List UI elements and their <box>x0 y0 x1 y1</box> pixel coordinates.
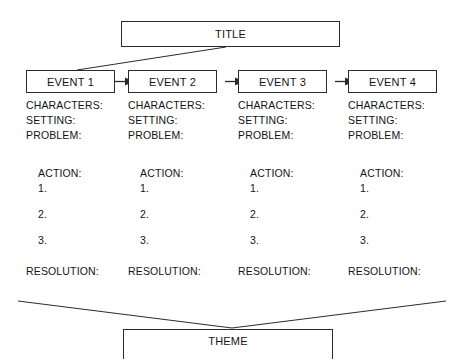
event-node-1-label: EVENT 1 <box>47 76 94 88</box>
action-item-1-2: 2. <box>26 207 128 222</box>
characters-label-1: CHARACTERS: <box>26 98 128 113</box>
event-node-3-label: EVENT 3 <box>259 76 306 88</box>
action-label-2: ACTION: <box>128 166 230 181</box>
characters-label-2: CHARACTERS: <box>128 98 230 113</box>
action-label-3: ACTION: <box>238 166 340 181</box>
action-item-3-2: 2. <box>238 207 340 222</box>
story-map-diagram: TITLE EVENT 1 CHARACTERS: SETTING: PROBL… <box>0 0 467 364</box>
field-spacer <box>348 196 450 207</box>
action-item-3-1: 1. <box>238 181 340 196</box>
right-resolution-to-theme-line <box>232 301 446 328</box>
action-item-3-3: 3. <box>238 233 340 248</box>
field-spacer <box>128 222 230 233</box>
problem-label-3: PROBLEM: <box>238 128 340 143</box>
title-to-event1-line <box>77 47 226 70</box>
field-spacer <box>26 248 128 264</box>
resolution-label-1: RESOLUTION: <box>26 264 128 279</box>
field-spacer <box>238 222 340 233</box>
action-item-2-3: 3. <box>128 233 230 248</box>
event-column-3-fields: CHARACTERS: SETTING: PROBLEM: ACTION: 1.… <box>238 98 340 279</box>
title-node[interactable]: TITLE <box>121 21 340 47</box>
action-label-1: ACTION: <box>26 166 128 181</box>
field-spacer <box>26 196 128 207</box>
field-spacer <box>26 143 128 166</box>
theme-node-label: THEME <box>208 335 248 347</box>
setting-label-4: SETTING: <box>348 113 450 128</box>
setting-label-3: SETTING: <box>238 113 340 128</box>
problem-label-2: PROBLEM: <box>128 128 230 143</box>
resolution-label-4: RESOLUTION: <box>348 264 450 279</box>
event-column-4-fields: CHARACTERS: SETTING: PROBLEM: ACTION: 1.… <box>348 98 450 279</box>
action-item-1-1: 1. <box>26 181 128 196</box>
field-spacer <box>128 196 230 207</box>
field-spacer <box>348 143 450 166</box>
event-node-2[interactable]: EVENT 2 <box>128 70 217 93</box>
action-item-1-3: 3. <box>26 233 128 248</box>
field-spacer <box>128 143 230 166</box>
field-spacer <box>238 143 340 166</box>
resolution-label-2: RESOLUTION: <box>128 264 230 279</box>
event-column-1-fields: CHARACTERS: SETTING: PROBLEM: ACTION: 1.… <box>26 98 128 279</box>
left-resolution-to-theme-line <box>18 301 232 328</box>
event-node-2-label: EVENT 2 <box>149 76 196 88</box>
field-spacer <box>348 222 450 233</box>
title-node-label: TITLE <box>215 28 246 40</box>
action-item-4-2: 2. <box>348 207 450 222</box>
characters-label-3: CHARACTERS: <box>238 98 340 113</box>
characters-label-4: CHARACTERS: <box>348 98 450 113</box>
problem-label-1: PROBLEM: <box>26 128 128 143</box>
action-item-2-2: 2. <box>128 207 230 222</box>
field-spacer <box>128 248 230 264</box>
event-node-4-label: EVENT 4 <box>369 76 416 88</box>
action-item-2-1: 1. <box>128 181 230 196</box>
action-label-4: ACTION: <box>348 166 450 181</box>
setting-label-2: SETTING: <box>128 113 230 128</box>
field-spacer <box>26 222 128 233</box>
event-node-4[interactable]: EVENT 4 <box>348 70 437 93</box>
setting-label-1: SETTING: <box>26 113 128 128</box>
event-node-1[interactable]: EVENT 1 <box>26 70 115 93</box>
resolution-label-3: RESOLUTION: <box>238 264 340 279</box>
field-spacer <box>238 248 340 264</box>
action-item-4-3: 3. <box>348 233 450 248</box>
action-item-4-1: 1. <box>348 181 450 196</box>
problem-label-4: PROBLEM: <box>348 128 450 143</box>
theme-node[interactable]: THEME <box>123 329 333 359</box>
field-spacer <box>348 248 450 264</box>
event-column-2-fields: CHARACTERS: SETTING: PROBLEM: ACTION: 1.… <box>128 98 230 279</box>
event-node-3[interactable]: EVENT 3 <box>238 70 327 93</box>
field-spacer <box>238 196 340 207</box>
